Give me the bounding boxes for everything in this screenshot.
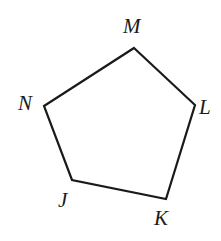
- vertex-label-j: J: [58, 190, 67, 211]
- vertex-label-n: N: [18, 93, 32, 114]
- vertex-label-m: M: [123, 16, 141, 37]
- geometry-figure: M L K J N: [0, 0, 221, 241]
- vertex-label-k: K: [154, 208, 168, 229]
- vertex-label-l: L: [199, 97, 211, 118]
- figure-background: [0, 0, 221, 241]
- pentagon-canvas: [0, 0, 221, 241]
